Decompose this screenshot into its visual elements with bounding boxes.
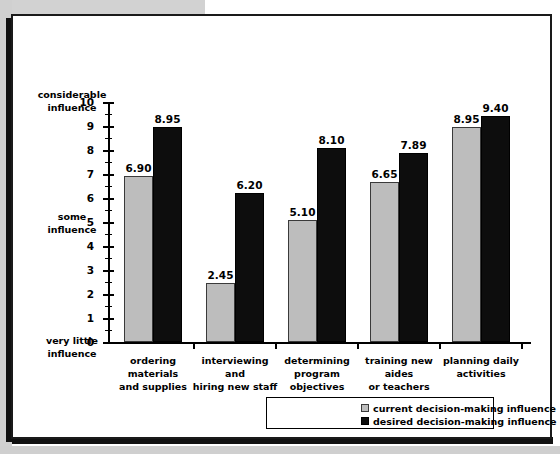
y-tick-label: 8 bbox=[87, 144, 94, 156]
bar-value-label: 8.95 bbox=[155, 113, 181, 125]
bar-value-label: 8.10 bbox=[319, 134, 345, 146]
bar-current: 5.10 bbox=[288, 220, 317, 342]
category-label: determining programobjectives bbox=[272, 354, 362, 393]
category-label-line2: objectives bbox=[272, 380, 362, 393]
legend-items: current decision-making influence desire… bbox=[361, 402, 557, 428]
bar-value-label: 6.90 bbox=[126, 162, 152, 174]
category-label-line2: or teachers bbox=[354, 380, 444, 393]
y-tick-label: 2 bbox=[87, 288, 94, 300]
y-tick-major: 8 bbox=[103, 150, 114, 152]
y-anchor-considerable: considerable influence bbox=[27, 88, 117, 114]
category-label-line2: activities bbox=[436, 367, 526, 380]
bar-value-label: 6.20 bbox=[237, 179, 263, 191]
y-tick-major: 1 bbox=[103, 318, 114, 320]
y-anchor-very-little-line1: very little bbox=[27, 334, 117, 347]
category-label-line2: and supplies bbox=[108, 380, 198, 393]
bar-desired: 6.20 bbox=[235, 193, 264, 342]
y-tick-minor bbox=[105, 306, 112, 307]
y-tick-major: 5 bbox=[103, 222, 114, 224]
category-label-line1: training new aides bbox=[354, 354, 444, 380]
x-tick bbox=[275, 342, 277, 349]
y-anchor-some-line2: influence bbox=[27, 223, 117, 236]
x-tick bbox=[357, 342, 359, 349]
bar-value-label: 9.40 bbox=[483, 102, 509, 114]
y-tick-major: 6 bbox=[103, 198, 114, 200]
legend-row-desired: desired decision-making influence bbox=[361, 415, 557, 427]
bar-current: 2.45 bbox=[206, 283, 235, 342]
bar-desired: 8.95 bbox=[153, 127, 182, 342]
y-tick-label: 5 bbox=[87, 216, 94, 228]
bar-value-label: 6.65 bbox=[372, 168, 398, 180]
scan-backdrop-bottom bbox=[0, 446, 560, 454]
bar-current: 8.95 bbox=[452, 127, 481, 342]
category-label: ordering materialsand supplies bbox=[108, 354, 198, 393]
y-tick-minor bbox=[105, 210, 112, 211]
x-tick bbox=[439, 342, 441, 349]
bar-value-label: 2.45 bbox=[208, 269, 234, 281]
legend-label-desired: desired decision-making influence bbox=[373, 416, 557, 427]
x-tick bbox=[193, 342, 195, 349]
y-tick-major: 4 bbox=[103, 246, 114, 248]
legend-swatch-desired-icon bbox=[361, 417, 369, 425]
y-tick-minor bbox=[105, 330, 112, 331]
bar-desired: 9.40 bbox=[481, 116, 510, 342]
y-tick-minor bbox=[105, 162, 112, 163]
plot-area: 012345678910 6.908.952.456.205.108.106.6… bbox=[108, 102, 528, 342]
category-label-line1: ordering materials bbox=[108, 354, 198, 380]
bar-current: 6.65 bbox=[370, 182, 399, 342]
y-tick-minor bbox=[105, 234, 112, 235]
legend-row-current: current decision-making influence bbox=[361, 402, 557, 414]
y-tick-major: 10 bbox=[103, 102, 114, 104]
y-tick-label: 7 bbox=[87, 168, 94, 180]
y-tick-minor bbox=[105, 282, 112, 283]
category-label-line1: determining program bbox=[272, 354, 362, 380]
category-label: interviewing andhiring new staff bbox=[190, 354, 280, 393]
bar-current: 6.90 bbox=[124, 176, 153, 342]
y-tick-major: 3 bbox=[103, 270, 114, 272]
x-axis-line bbox=[108, 342, 531, 344]
category-label: training new aidesor teachers bbox=[354, 354, 444, 393]
screenshot-root: considerable influence some influence ve… bbox=[0, 0, 560, 454]
y-tick-label: 9 bbox=[87, 120, 94, 132]
y-tick-label: 10 bbox=[79, 96, 94, 108]
y-tick-major: 7 bbox=[103, 174, 114, 176]
y-tick-minor bbox=[105, 258, 112, 259]
bar-desired: 8.10 bbox=[317, 148, 346, 342]
y-tick-major: 9 bbox=[103, 126, 114, 128]
bar-value-label: 7.89 bbox=[401, 139, 427, 151]
y-tick-label: 4 bbox=[87, 240, 94, 252]
y-tick-minor bbox=[105, 186, 112, 187]
category-label-line1: interviewing and bbox=[190, 354, 280, 380]
y-tick-label: 0 bbox=[87, 336, 94, 348]
y-anchor-very-little: very little influence bbox=[27, 334, 117, 360]
y-tick-major: 2 bbox=[103, 294, 114, 296]
y-tick-label: 6 bbox=[87, 192, 94, 204]
y-anchor-considerable-line1: considerable bbox=[27, 88, 117, 101]
category-label-line1: planning daily bbox=[436, 354, 526, 367]
bar-value-label: 8.95 bbox=[454, 113, 480, 125]
y-anchor-very-little-line2: influence bbox=[27, 347, 117, 360]
y-tick-minor bbox=[105, 114, 112, 115]
chart-page: considerable influence some influence ve… bbox=[11, 14, 552, 439]
bar-desired: 7.89 bbox=[399, 153, 428, 342]
category-label: planning dailyactivities bbox=[436, 354, 526, 380]
bar-value-label: 5.10 bbox=[290, 206, 316, 218]
y-tick-minor bbox=[105, 138, 112, 139]
category-label-line2: hiring new staff bbox=[190, 380, 280, 393]
x-tick bbox=[521, 342, 523, 349]
y-tick-label: 1 bbox=[87, 312, 94, 324]
bar-chart: considerable influence some influence ve… bbox=[13, 16, 550, 437]
legend-label-current: current decision-making influence bbox=[373, 403, 556, 414]
y-tick-label: 3 bbox=[87, 264, 94, 276]
y-tick-major: 0 bbox=[103, 342, 114, 344]
chart-legend: current decision-making influence desire… bbox=[266, 397, 494, 429]
legend-swatch-current-icon bbox=[361, 404, 369, 412]
